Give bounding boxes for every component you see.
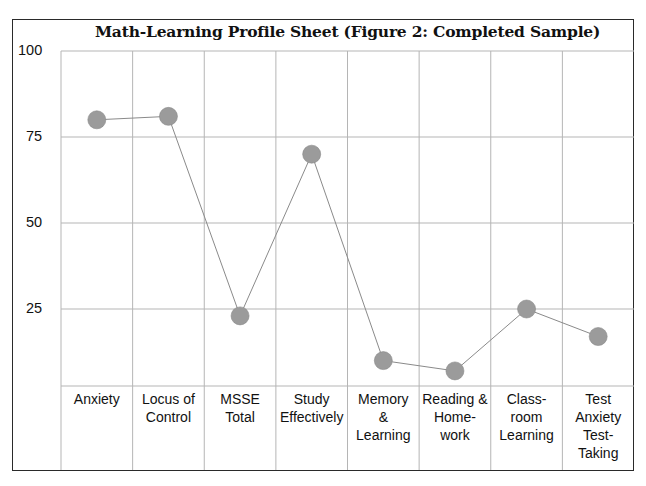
x-label-1: Anxiety [61, 390, 133, 408]
data-point-5 [374, 352, 392, 370]
x-label-4: StudyEffectively [276, 390, 348, 426]
data-point-7 [518, 300, 536, 318]
x-label-2: Locus ofControl [133, 390, 205, 426]
data-point-2 [159, 107, 177, 125]
data-point-6 [446, 362, 464, 380]
x-label-6: Reading &Home-work [419, 390, 491, 444]
x-label-7: Class-roomLearning [491, 390, 563, 444]
data-point-8 [589, 328, 607, 346]
data-point-3 [231, 307, 249, 325]
x-label-5: Memory&Learning [348, 390, 420, 444]
data-point-4 [303, 145, 321, 163]
x-label-3: MSSETotal [204, 390, 276, 426]
data-point-1 [88, 111, 106, 129]
x-label-8: TestAnxietyTest-Taking [562, 390, 634, 462]
